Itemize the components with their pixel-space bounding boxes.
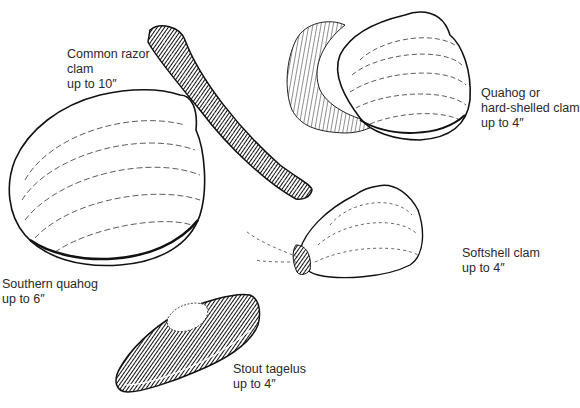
species-name: clam (67, 62, 150, 77)
quahog-drawing (287, 12, 470, 140)
species-name: Softshell clam (462, 246, 540, 261)
species-name: Common razor (67, 47, 150, 62)
species-size: up to 10″ (67, 77, 150, 92)
label-common-razor-clam: Common razor clam up to 10″ (67, 47, 150, 92)
southern-quahog-drawing (9, 90, 204, 266)
species-size: up to 6″ (2, 292, 98, 307)
species-size: up to 4″ (481, 116, 580, 131)
label-stout-tagelus: Stout tagelus up to 4″ (233, 362, 306, 392)
species-name: Southern quahog (2, 277, 98, 292)
label-southern-quahog: Southern quahog up to 6″ (2, 277, 98, 307)
label-quahog: Quahog or hard-shelled clam up to 4″ (481, 86, 580, 131)
species-size: up to 4″ (462, 261, 540, 276)
species-name: Quahog or (481, 86, 580, 101)
species-name: Stout tagelus (233, 362, 306, 377)
species-size: up to 4″ (233, 377, 306, 392)
label-softshell-clam: Softshell clam up to 4″ (462, 246, 540, 276)
species-name: hard-shelled clam (481, 101, 580, 116)
softshell-clam-drawing (245, 185, 423, 277)
